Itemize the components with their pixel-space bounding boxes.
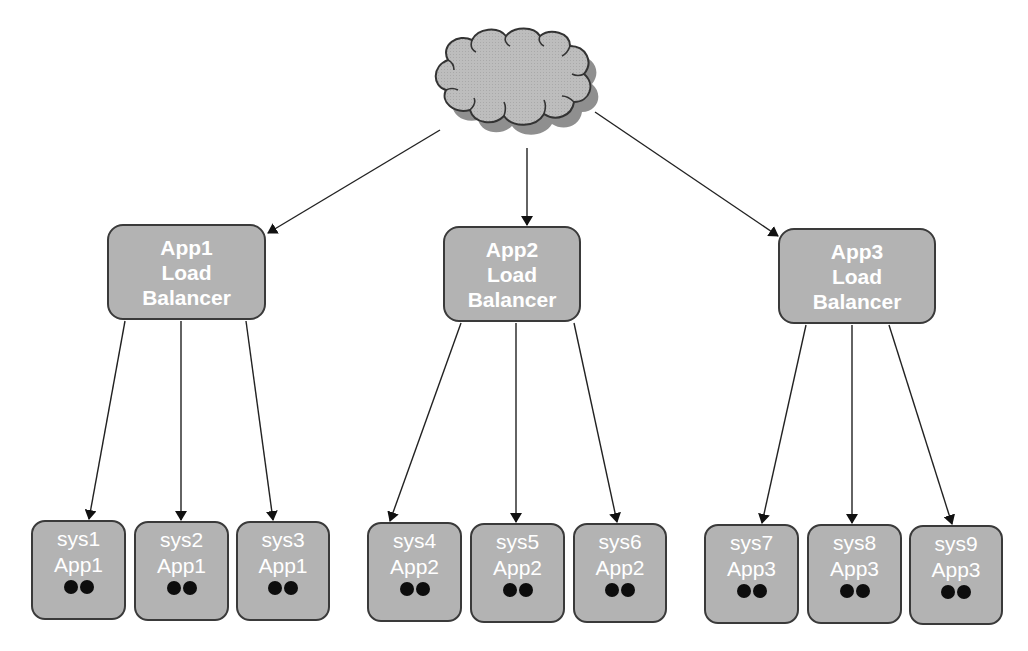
arrow-lb3-to-sys9 (889, 325, 952, 524)
instance-dot-icon (605, 583, 619, 597)
arrow-lb2-to-sys6 (574, 323, 617, 522)
system-node-sys5: sys5App2 (470, 523, 565, 623)
instance-dot-icon (840, 584, 854, 598)
load-balancer-label-line: Balancer (813, 289, 902, 314)
load-balancer-label-line: Balancer (468, 287, 557, 312)
instance-dot-icon (737, 584, 751, 598)
system-name: sys1 (57, 526, 100, 552)
system-node-sys2: sys2App1 (134, 521, 229, 621)
load-balancer-lb1: App1LoadBalancer (107, 224, 266, 320)
system-node-sys9: sys9App3 (909, 525, 1003, 625)
instance-dot-icon (268, 581, 282, 595)
arrow-lb2-to-sys4 (390, 323, 461, 521)
arrow-cloud-to-lb1 (268, 130, 440, 233)
system-node-sys7: sys7App3 (704, 524, 799, 624)
system-name: sys7 (730, 530, 773, 556)
load-balancer-label-line: Load (487, 262, 537, 287)
instance-dot-icon (167, 581, 181, 595)
system-node-sys3: sys3App1 (236, 521, 330, 621)
instance-dots (400, 582, 430, 596)
instance-dot-icon (284, 581, 298, 595)
load-balancer-label-line: Load (161, 260, 211, 285)
load-balancer-label-line: App2 (486, 237, 539, 262)
load-balancer-label-line: App3 (831, 239, 884, 264)
system-app: App2 (493, 555, 542, 581)
instance-dot-icon (941, 585, 955, 599)
system-app: App3 (727, 556, 776, 582)
instance-dots (941, 585, 971, 599)
system-name: sys5 (496, 529, 539, 555)
instance-dot-icon (519, 583, 533, 597)
system-name: sys9 (934, 531, 977, 557)
system-app: App1 (258, 553, 307, 579)
system-app: App1 (157, 553, 206, 579)
system-app: App1 (54, 552, 103, 578)
instance-dots (268, 581, 298, 595)
instance-dot-icon (416, 582, 430, 596)
system-node-sys1: sys1App1 (31, 520, 126, 620)
arrow-lb1-to-sys1 (89, 321, 125, 519)
arrow-cloud-to-lb3 (595, 112, 778, 236)
instance-dot-icon (856, 584, 870, 598)
system-app: App2 (390, 554, 439, 580)
system-node-sys6: sys6App2 (573, 523, 667, 623)
load-balancer-lb3: App3LoadBalancer (778, 228, 936, 324)
instance-dot-icon (183, 581, 197, 595)
instance-dot-icon (64, 580, 78, 594)
instance-dots (167, 581, 197, 595)
system-name: sys4 (393, 528, 436, 554)
load-balancer-label-line: App1 (160, 235, 213, 260)
system-name: sys8 (833, 530, 876, 556)
instance-dot-icon (753, 584, 767, 598)
instance-dots (737, 584, 767, 598)
instance-dot-icon (80, 580, 94, 594)
system-name: sys6 (598, 529, 641, 555)
instance-dot-icon (957, 585, 971, 599)
instance-dots (840, 584, 870, 598)
load-balancer-label-line: Load (832, 264, 882, 289)
system-app: App2 (595, 555, 644, 581)
system-app: App3 (931, 557, 980, 583)
system-node-sys8: sys8App3 (807, 524, 902, 624)
instance-dots (605, 583, 635, 597)
instance-dots (64, 580, 94, 594)
arrow-lb1-to-sys3 (246, 321, 273, 520)
system-name: sys2 (160, 527, 203, 553)
system-node-sys4: sys4App2 (367, 522, 462, 622)
instance-dot-icon (503, 583, 517, 597)
instance-dot-icon (621, 583, 635, 597)
load-balancer-label-line: Balancer (142, 285, 231, 310)
system-name: sys3 (261, 527, 304, 553)
system-app: App3 (830, 556, 879, 582)
network-diagram: App1LoadBalancerApp2LoadBalancerApp3Load… (0, 0, 1028, 651)
instance-dots (503, 583, 533, 597)
load-balancer-lb2: App2LoadBalancer (443, 226, 581, 322)
instance-dot-icon (400, 582, 414, 596)
cloud-icon (436, 29, 591, 125)
arrow-lb3-to-sys7 (762, 325, 806, 523)
